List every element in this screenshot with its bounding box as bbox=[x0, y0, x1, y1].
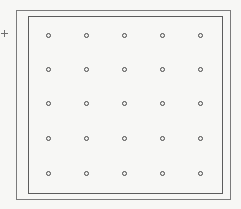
hole-marker bbox=[160, 171, 165, 176]
hole-marker bbox=[122, 101, 127, 106]
hole-marker bbox=[46, 101, 51, 106]
hole-marker bbox=[198, 101, 203, 106]
hole-marker bbox=[46, 33, 51, 38]
hole-marker bbox=[46, 136, 51, 141]
hole-marker bbox=[84, 101, 89, 106]
drawing-canvas bbox=[0, 0, 241, 209]
hole-marker bbox=[84, 171, 89, 176]
hole-marker bbox=[160, 101, 165, 106]
hole-marker bbox=[160, 67, 165, 72]
hole-marker bbox=[84, 67, 89, 72]
hole-marker bbox=[46, 67, 51, 72]
hole-marker bbox=[198, 136, 203, 141]
hole-marker bbox=[84, 33, 89, 38]
hole-marker bbox=[198, 33, 203, 38]
hole-marker bbox=[198, 171, 203, 176]
hole-marker bbox=[84, 136, 89, 141]
hole-marker bbox=[160, 33, 165, 38]
hole-marker bbox=[122, 67, 127, 72]
hole-marker bbox=[122, 171, 127, 176]
hole-marker bbox=[122, 136, 127, 141]
hole-marker bbox=[198, 67, 203, 72]
hole-marker bbox=[122, 33, 127, 38]
hole-marker bbox=[160, 136, 165, 141]
origin-cross-icon bbox=[1, 30, 8, 37]
hole-marker bbox=[46, 171, 51, 176]
origin-cross-vertical bbox=[4, 30, 5, 37]
